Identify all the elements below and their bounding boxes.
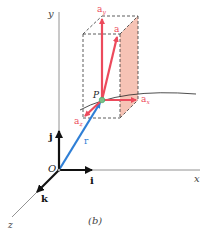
point-p-label: P: [92, 90, 100, 100]
unit-vector-j-label: j: [48, 131, 53, 142]
position-vector-r: [59, 103, 100, 170]
y-axis-label: y: [47, 8, 54, 19]
vector-a: [102, 37, 117, 100]
kinematics-diagram: y x z O i j k r P ay a ax az (b): [0, 0, 210, 236]
axes: [12, 12, 200, 217]
unit-vector-k-label: k: [41, 193, 49, 204]
position-vector-label: r: [84, 136, 89, 146]
vector-a-label: a: [114, 24, 120, 34]
unit-vector-i-label: i: [90, 175, 94, 186]
vector-ax-label: ax: [141, 94, 150, 105]
origin-point: [58, 169, 61, 172]
vector-ay-label: ay: [97, 4, 106, 16]
point-p: [99, 97, 105, 103]
z-axis-label: z: [7, 220, 13, 230]
figure-caption: (b): [88, 215, 102, 226]
x-axis-label: x: [194, 173, 200, 184]
origin-label: O: [48, 163, 56, 174]
vector-az-label: az: [74, 116, 83, 127]
